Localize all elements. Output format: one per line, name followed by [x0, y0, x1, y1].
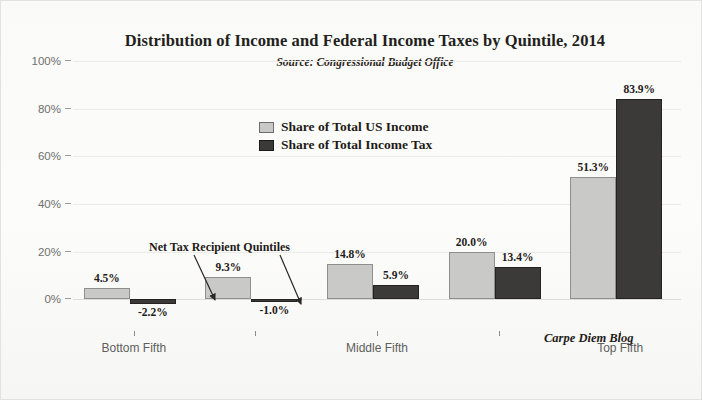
bar-value-label: 9.3%: [192, 261, 264, 273]
bar-value-label: 20.0%: [436, 236, 508, 248]
bar-value-label: 14.8%: [314, 248, 386, 260]
bar-value-label: 83.9%: [603, 83, 675, 95]
plot-area: 4.5%-2.2%9.3%-1.0%14.8%5.9%20.0%13.4%51.…: [73, 61, 681, 323]
y-tick-label: 100%: [32, 55, 61, 67]
legend-item-tax: Share of Total Income Tax: [259, 137, 432, 153]
bar-value-label: -2.2%: [117, 306, 189, 318]
bar: [130, 299, 176, 304]
bar-value-label: 4.5%: [71, 272, 143, 284]
x-tick-mark: [499, 331, 500, 336]
legend-label-tax: Share of Total Income Tax: [281, 137, 432, 153]
legend: Share of Total US Income Share of Total …: [259, 119, 432, 155]
gridline: [73, 61, 681, 62]
y-tick-label: 0%: [44, 293, 61, 305]
y-tick-mark: [65, 203, 71, 204]
bar: [373, 285, 419, 299]
bar: [205, 277, 251, 299]
bar: [616, 99, 662, 299]
legend-label-income: Share of Total US Income: [281, 119, 429, 135]
legend-swatch-tax-icon: [259, 140, 274, 151]
x-tick-label: Bottom Fifth: [101, 341, 166, 355]
x-tick-mark: [255, 331, 256, 336]
gridline: [73, 156, 681, 157]
y-axis: 0%20%40%60%80%100%: [1, 61, 73, 323]
legend-item-income: Share of Total US Income: [259, 119, 432, 135]
gridline: [73, 109, 681, 110]
chart-title: Distribution of Income and Federal Incom…: [1, 31, 701, 51]
y-tick-mark: [65, 155, 71, 156]
bar: [570, 177, 616, 299]
y-tick-label: 60%: [38, 150, 61, 162]
legend-swatch-income-icon: [259, 122, 274, 133]
x-tick-label: Middle Fifth: [346, 341, 408, 355]
watermark-carpe-diem-blog: Carpe Diem Blog: [544, 331, 634, 346]
y-tick-mark: [65, 60, 71, 61]
bar: [251, 299, 297, 301]
annotation-net-tax-recipient: Net Tax Recipient Quintiles: [149, 240, 290, 255]
y-tick-mark: [65, 251, 71, 252]
y-tick-label: 20%: [38, 246, 61, 258]
x-tick-mark: [377, 331, 378, 336]
bar: [495, 267, 541, 299]
bar-value-label: 13.4%: [482, 251, 554, 263]
bar: [84, 288, 130, 299]
x-tick-mark: [134, 331, 135, 336]
bar-value-label: -1.0%: [238, 304, 310, 316]
y-tick-label: 80%: [38, 103, 61, 115]
bar-value-label: 5.9%: [360, 269, 432, 281]
chart-image: Distribution of Income and Federal Incom…: [0, 0, 702, 400]
y-tick-label: 40%: [38, 198, 61, 210]
y-tick-mark: [65, 108, 71, 109]
y-tick-mark: [65, 298, 71, 299]
